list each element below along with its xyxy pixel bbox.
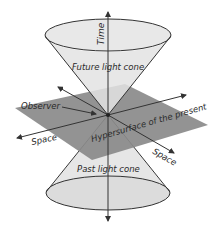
past-cone-label: Past light cone: [77, 164, 140, 174]
time-label: Time: [96, 22, 106, 45]
space-right-label: Space: [151, 146, 178, 168]
diagram-canvas: Time Future light cone Observer Space Hy…: [0, 0, 221, 228]
observer-label: Observer: [21, 101, 60, 111]
light-cone-diagram: Time Future light cone Observer Space Hy…: [0, 0, 221, 228]
future-cone-label: Future light cone: [72, 62, 144, 72]
observer-point: [106, 113, 110, 117]
